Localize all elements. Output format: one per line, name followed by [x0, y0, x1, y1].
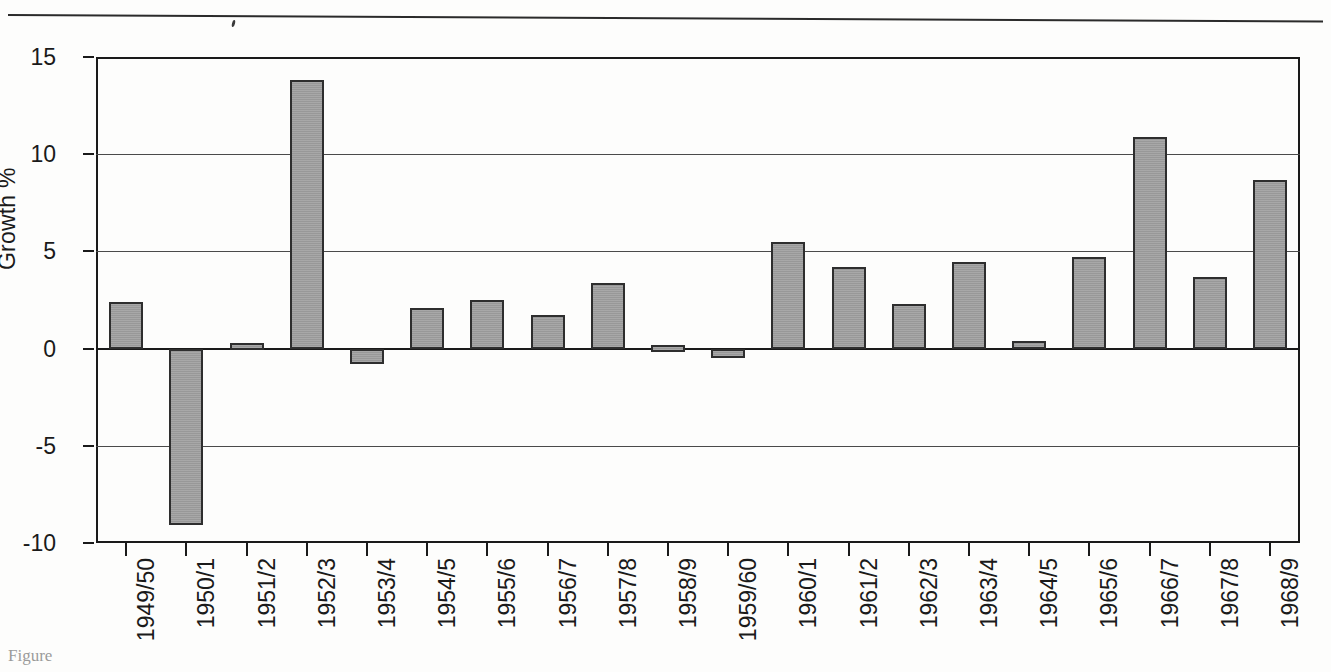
y-tick-label--10: -10	[23, 532, 56, 555]
x-tick-label-1955-6: 1955/6	[496, 558, 519, 628]
bar-1965-6	[1072, 257, 1106, 348]
x-tick-label-1963-4: 1963/4	[978, 558, 1001, 628]
bar-1950-1	[169, 349, 203, 526]
x-tick-label-1951-2: 1951/2	[256, 558, 279, 628]
bar-1952-3	[290, 80, 324, 348]
x-tick-1954-5	[426, 543, 428, 556]
bar-1964-5	[1012, 341, 1046, 349]
y-tick--5	[83, 445, 94, 447]
y-tick-0	[83, 348, 94, 350]
y-tick-label-10: 10	[30, 143, 56, 166]
bar-1963-4	[952, 262, 986, 349]
bar-1951-2	[230, 343, 264, 350]
x-tick-1950-1	[185, 543, 187, 556]
x-tick-1961-2	[848, 543, 850, 556]
y-tick--10	[83, 542, 94, 544]
bar-1968-9	[1253, 180, 1287, 348]
x-tick-1955-6	[486, 543, 488, 556]
x-tick-label-1962-3: 1962/3	[918, 558, 941, 628]
x-tick-label-1966-7: 1966/7	[1159, 558, 1182, 628]
figure-caption: Figure	[8, 646, 52, 666]
bar-1949-50	[109, 302, 143, 349]
x-tick-label-1961-2: 1961/2	[858, 558, 881, 628]
bar-1956-7	[531, 315, 565, 349]
x-tick-1949-50	[125, 543, 127, 556]
x-tick-label-1950-1: 1950/1	[195, 558, 218, 628]
x-tick-label-1956-7: 1956/7	[557, 558, 580, 628]
x-tick-label-1960-1: 1960/1	[797, 558, 820, 628]
x-tick-label-1953-4: 1953/4	[376, 558, 399, 628]
y-axis-labels: 151050-5-10	[0, 57, 78, 543]
x-tick-label-1959-60: 1959/60	[737, 558, 760, 641]
x-axis-labels: 1949/501950/11951/21952/31953/41954/5195…	[96, 558, 1300, 666]
y-tick-10	[83, 153, 94, 155]
y-tick-label-5: 5	[43, 240, 56, 263]
x-tick-label-1949-50: 1949/50	[135, 558, 158, 641]
x-tick-label-1964-5: 1964/5	[1038, 558, 1061, 628]
bar-1967-8	[1193, 277, 1227, 349]
bar-1958-9	[651, 345, 685, 352]
bar-1962-3	[892, 304, 926, 349]
bar-1954-5	[410, 308, 444, 349]
x-tick-1951-2	[246, 543, 248, 556]
bar-1960-1	[771, 242, 805, 349]
y-tick-5	[83, 250, 94, 252]
x-tick-1952-3	[306, 543, 308, 556]
bar-1959-60	[711, 349, 745, 359]
x-tick-1968-9	[1269, 543, 1271, 556]
y-tick-label--5: -5	[36, 434, 56, 457]
x-tick-label-1967-8: 1967/8	[1219, 558, 1242, 628]
x-tick-1958-9	[667, 543, 669, 556]
x-tick-label-1958-9: 1958/9	[677, 558, 700, 628]
bar-1957-8	[591, 283, 625, 349]
bar-1966-7	[1133, 137, 1167, 349]
x-tick-label-1952-3: 1952/3	[316, 558, 339, 628]
y-axis-title: Growth %	[0, 167, 21, 270]
chart-plot-area	[96, 57, 1300, 543]
x-tick-1965-6	[1088, 543, 1090, 556]
x-tick-1967-8	[1209, 543, 1211, 556]
x-tick-label-1957-8: 1957/8	[617, 558, 640, 628]
bar-1961-2	[832, 267, 866, 349]
x-tick-label-1954-5: 1954/5	[436, 558, 459, 628]
bar-1955-6	[470, 300, 504, 349]
x-tick-1960-1	[787, 543, 789, 556]
x-tick-1964-5	[1028, 543, 1030, 556]
x-tick-1959-60	[727, 543, 729, 556]
x-tick-1962-3	[908, 543, 910, 556]
x-axis-ticks	[96, 543, 1300, 557]
x-tick-label-1965-6: 1965/6	[1098, 558, 1121, 628]
x-tick-1957-8	[607, 543, 609, 556]
x-tick-1966-7	[1149, 543, 1151, 556]
y-tick-label-0: 0	[43, 337, 56, 360]
x-tick-1953-4	[366, 543, 368, 556]
y-tick-15	[83, 56, 94, 58]
x-tick-1956-7	[547, 543, 549, 556]
x-tick-label-1968-9: 1968/9	[1279, 558, 1302, 628]
x-tick-1963-4	[968, 543, 970, 556]
bar-1953-4	[350, 349, 384, 365]
y-tick-label-15: 15	[30, 46, 56, 69]
bar-series	[96, 57, 1300, 543]
